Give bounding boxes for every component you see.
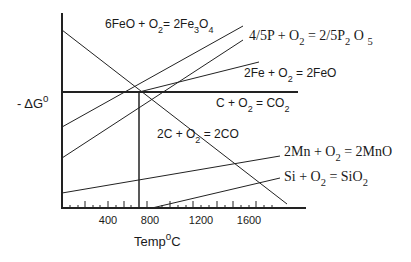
- label-sub: 5: [367, 36, 372, 47]
- line-c-co: [62, 30, 287, 204]
- x-axis-ticks: [70, 201, 272, 208]
- label-fe-feo: 2Fe + O2 = 2FeO: [244, 67, 336, 79]
- label-text: 2C + O: [157, 127, 195, 141]
- x-tick-label-400: 400: [99, 214, 117, 226]
- x-tick-label-1200: 1200: [189, 214, 213, 226]
- label-sub: 2: [345, 36, 350, 47]
- label-sub: 2: [158, 25, 163, 35]
- label-text: 6FeO + O: [105, 17, 158, 31]
- label-sub: 3: [194, 25, 199, 35]
- line-si-sio2: [152, 178, 280, 208]
- x-axis-label-sup: 0: [166, 231, 171, 242]
- label-sub: 2: [321, 177, 326, 188]
- x-tick-label-1600: 1600: [237, 214, 261, 226]
- label-sub: 2: [284, 104, 289, 114]
- x-axis-label: Temp0C: [134, 235, 181, 248]
- label-text: = CO: [253, 96, 285, 110]
- label-text: = SiO: [326, 169, 363, 184]
- x-axis-label-unit: C: [171, 234, 180, 249]
- ellingham-diagram: - ΔG0 400 800 1200 1600 Temp0C 6FeO + O2…: [0, 0, 411, 262]
- label-feo-fe3o4: 6FeO + O2= 2Fe3O4: [105, 18, 213, 30]
- label-text: = 2/5P: [304, 28, 345, 43]
- label-c-co: 2C + O2 = 2CO: [157, 128, 239, 140]
- label-text: 2Mn + O: [284, 144, 335, 159]
- label-text: Si + O: [284, 169, 321, 184]
- line-mn-mno: [62, 156, 280, 193]
- label-text: 2Fe + O: [244, 66, 288, 80]
- label-text: 4/5P + O: [249, 28, 299, 43]
- y-axis-label-sup: 0: [43, 93, 48, 104]
- label-sub: 2: [299, 36, 304, 47]
- label-sub: 4: [208, 25, 213, 35]
- label-sub: 2: [288, 74, 293, 84]
- line-feo-fe3o4: [62, 26, 243, 127]
- y-axis-label: - ΔG0: [17, 97, 48, 110]
- label-text: = 2CO: [200, 127, 238, 141]
- y-axis-label-text: - ΔG: [17, 96, 43, 111]
- label-sub: 2: [195, 135, 200, 145]
- label-text: = 2FeO: [293, 66, 337, 80]
- x-axis-label-text: Temp: [134, 234, 166, 249]
- label-sub: 2: [248, 104, 253, 114]
- x-tick-label-800: 800: [141, 214, 159, 226]
- label-text: = 2MnO: [341, 144, 392, 159]
- label-mn-mno: 2Mn + O2 = 2MnO: [284, 145, 392, 159]
- label-p-p2o5: 4/5P + O2 = 2/5P2 O 5: [249, 29, 373, 43]
- label-sub: 2: [363, 177, 368, 188]
- label-text: O: [350, 28, 367, 43]
- label-si-sio2: Si + O2 = SiO2: [284, 170, 368, 184]
- label-text: C + O: [216, 96, 248, 110]
- line-fe-feo: [139, 62, 259, 92]
- label-text: = 2Fe: [163, 17, 194, 31]
- label-c-co2: C + O2 = CO2: [216, 97, 289, 109]
- label-sub: 2: [335, 152, 340, 163]
